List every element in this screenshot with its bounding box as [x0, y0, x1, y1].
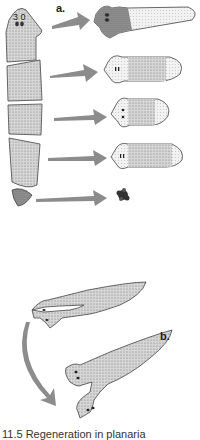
arrows-panel-a [36, 12, 107, 206]
segment-2 [7, 60, 42, 101]
arrow-3 [54, 109, 107, 125]
arrow-2 [50, 64, 98, 82]
regenerated-worm-4 [111, 143, 183, 168]
segment-tail [12, 189, 32, 206]
arrow-5 [36, 190, 107, 206]
head-marking: 3 0 [13, 12, 26, 22]
split-head-worm [32, 282, 146, 328]
segment-3 [8, 104, 42, 135]
arrow-1 [52, 12, 90, 30]
segment-4 [9, 138, 40, 187]
disintegrated-fragment [117, 188, 130, 201]
two-headed-worm [66, 330, 173, 418]
panel-a-label: a. [56, 2, 65, 14]
regenerated-worm-2 [104, 56, 182, 83]
arrow-4 [48, 150, 107, 166]
regenerated-worm-3 [111, 98, 169, 127]
original-worm-segments [6, 8, 42, 206]
curved-arrow [22, 322, 56, 406]
regenerated-worm-1 [94, 6, 195, 38]
figure-caption: 11.5 Regeneration in planaria [2, 428, 146, 440]
panel-b-label: b. [160, 330, 170, 342]
